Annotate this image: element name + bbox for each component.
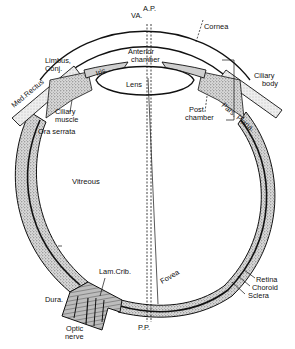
label-vitreous: Vitreous bbox=[72, 177, 100, 186]
label-dura: Dura. bbox=[45, 295, 63, 304]
label-pp: P.P. bbox=[138, 323, 150, 332]
label-va: VA. bbox=[131, 11, 142, 20]
label-conj: Conj. bbox=[45, 64, 62, 73]
label-lens: Lens bbox=[126, 80, 142, 89]
label-nerve: nerve bbox=[65, 332, 84, 341]
label-ora-serrata: Ora serrata bbox=[38, 127, 76, 136]
label-ciliary-body-2: body bbox=[262, 79, 278, 88]
label-ap: A.P. bbox=[143, 4, 156, 13]
label-sclera: Sclera bbox=[248, 291, 270, 300]
sclera-wall bbox=[15, 112, 275, 317]
label-lam-crib: Lam.Crib. bbox=[99, 267, 131, 276]
label-ciliary-muscle-2: muscle bbox=[55, 115, 78, 124]
label-fovea: Fovea bbox=[159, 267, 182, 286]
label-post-chamber: chamber bbox=[185, 113, 214, 122]
eye-cross-section-diagram: A.P. VA. Cornea Limbus, Conj. Iris Anter… bbox=[0, 0, 295, 349]
label-cornea: Cornea bbox=[204, 22, 229, 31]
lens bbox=[96, 67, 194, 96]
label-chamber: chamber bbox=[131, 55, 160, 64]
